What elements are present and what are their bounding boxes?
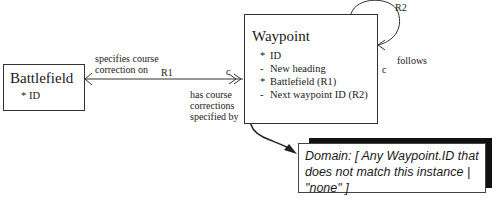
- attribute-marker: -: [260, 63, 264, 74]
- r1-from-phrase-line2: correction on: [95, 64, 148, 76]
- attribute-name: New heading: [270, 63, 326, 74]
- r1-conditionality: c: [226, 66, 230, 78]
- attribute-name: Battlefield (R1): [270, 76, 336, 87]
- attribute-marker: *: [260, 50, 265, 61]
- r1-to-phrase-line3: specified by: [190, 111, 239, 123]
- waypoint-entity[interactable]: Waypoint * ID - New heading * Battlefiel…: [244, 14, 378, 124]
- note-line-3: "none" ]: [305, 180, 479, 196]
- note-pointer-arrow-icon: [284, 144, 297, 154]
- attribute-name: Next waypoint ID (R2): [270, 89, 368, 100]
- entity-title: Battlefield: [10, 70, 73, 87]
- r2-label: R2: [395, 2, 407, 14]
- domain-note: Domain: [ Any Waypoint.ID that does not …: [298, 143, 486, 193]
- attribute-marker: *: [21, 90, 26, 101]
- attribute-marker: *: [260, 76, 265, 87]
- entity-title: Waypoint: [252, 28, 310, 45]
- attribute-marker: -: [260, 89, 264, 100]
- r2-phrase: follows: [397, 55, 427, 67]
- attribute-name: ID: [270, 50, 281, 61]
- r2-conditionality: c: [382, 64, 386, 76]
- note-line-1: Domain: [ Any Waypoint.ID that: [305, 148, 479, 164]
- attribute-name: ID: [29, 90, 40, 101]
- note-line-2: does not match this instance |: [305, 164, 479, 180]
- battlefield-entity[interactable]: Battlefield * ID: [3, 64, 85, 111]
- r1-label: R1: [161, 67, 173, 79]
